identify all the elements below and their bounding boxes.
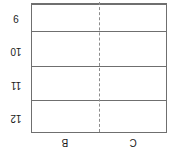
row-label-11: 11	[3, 80, 29, 91]
row-label-10: 10	[3, 46, 29, 57]
grid-box	[31, 3, 167, 133]
figure-root: 12 11 10 9 B C	[0, 0, 181, 160]
column-divider-dashed	[99, 2, 100, 132]
row-label-9: 9	[3, 13, 29, 24]
column-label-b: B	[45, 137, 85, 148]
column-label-c: C	[113, 137, 153, 148]
row-label-12: 12	[3, 113, 29, 124]
